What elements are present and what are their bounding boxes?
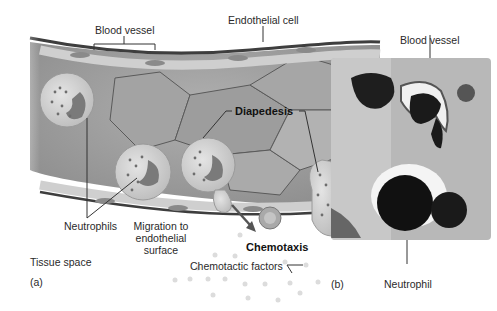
panel-label-b: (b) — [331, 278, 344, 290]
label-tissue-space: Tissue space — [30, 256, 91, 268]
label-chemotactic-factors: Chemotactic factors — [190, 260, 283, 272]
label-chemotaxis: Chemotaxis — [246, 241, 308, 253]
label-migration: Migration to endothelial surface — [131, 220, 191, 256]
label-blood-vessel-a: Blood vessel — [95, 24, 155, 36]
label-neutrophil-b: Neutrophil — [384, 278, 432, 290]
label-blood-vessel-b: Blood vessel — [400, 34, 460, 46]
label-neutrophils: Neutrophils — [64, 220, 117, 232]
panel-label-a: (a) — [30, 276, 43, 288]
neutrophil-cell-2 — [115, 144, 171, 200]
neutrophil-cell-1 — [40, 73, 94, 127]
electron-micrograph — [331, 58, 491, 240]
label-endothelial-cell: Endothelial cell — [228, 14, 299, 26]
label-diapedesis: Diapedesis — [235, 105, 293, 117]
red-blood-cell — [259, 207, 281, 229]
